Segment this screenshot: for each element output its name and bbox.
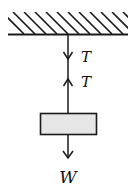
hanging-block (41, 114, 97, 135)
free-body-diagram: T T W (0, 0, 136, 189)
tension-label-upper: T (81, 48, 92, 66)
ceiling-hatching (2, 12, 136, 34)
weight-label: W (59, 167, 78, 187)
tension-label-lower: T (81, 73, 92, 91)
